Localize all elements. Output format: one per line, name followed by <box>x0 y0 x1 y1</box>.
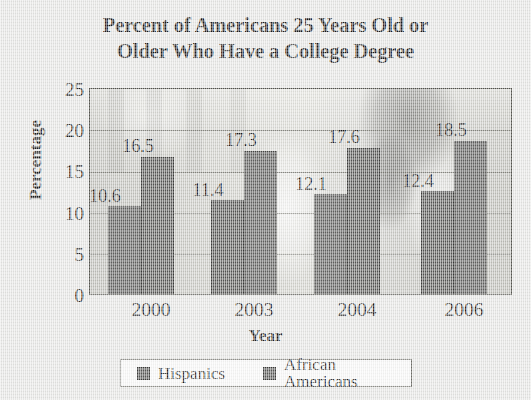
legend-item-african-americans: African Americans <box>263 356 411 390</box>
data-label-hispanics-2003: 11.4 <box>181 181 235 199</box>
y-tick-10: 10 <box>50 204 84 223</box>
data-label-african-americans-2003: 17.3 <box>214 131 268 149</box>
bar-hispanics-2004 <box>314 194 347 294</box>
bar-african-americans-2006 <box>454 141 487 294</box>
bar-hispanics-2006 <box>421 191 454 294</box>
legend-label-african-americans: African Americans <box>284 356 411 390</box>
x-tick-2006: 2006 <box>419 299 509 321</box>
bar-african-americans-2004 <box>347 148 380 294</box>
legend-swatch-african-americans <box>263 367 276 380</box>
y-tick-20: 20 <box>50 121 84 140</box>
data-label-african-americans-2006: 18.5 <box>424 121 478 139</box>
legend-item-hispanics: Hispanics <box>137 365 225 382</box>
data-label-african-americans-2000: 16.5 <box>111 137 165 155</box>
chart-figure: Percent of Americans 25 Years Old or Old… <box>0 0 531 400</box>
chart-legend: Hispanics African Americans <box>120 359 412 387</box>
bar-hispanics-2000 <box>108 206 141 294</box>
y-tick-15: 15 <box>50 162 84 181</box>
x-tick-2000: 2000 <box>106 299 196 321</box>
bar-hispanics-2003 <box>211 200 244 294</box>
x-axis-title: Year <box>0 326 531 346</box>
legend-label-hispanics: Hispanics <box>158 365 225 382</box>
data-label-african-americans-2004: 17.6 <box>317 128 371 146</box>
x-tick-2003: 2003 <box>209 299 299 321</box>
y-tick-5: 5 <box>50 245 84 264</box>
data-label-hispanics-2004: 12.1 <box>284 175 338 193</box>
data-label-hispanics-2006: 12.4 <box>391 172 445 190</box>
bar-african-americans-2003 <box>244 151 277 294</box>
legend-swatch-hispanics <box>137 367 150 380</box>
y-tick-0: 0 <box>50 286 84 305</box>
bar-african-americans-2000 <box>141 157 174 294</box>
data-label-hispanics-2000: 10.6 <box>78 187 132 205</box>
x-tick-2004: 2004 <box>312 299 402 321</box>
y-tick-25: 25 <box>50 80 84 99</box>
